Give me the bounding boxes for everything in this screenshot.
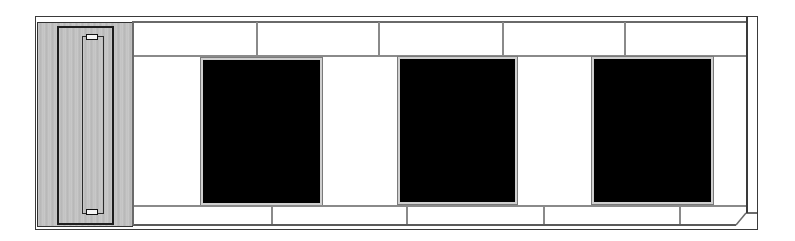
lower-band-joint (271, 206, 273, 224)
lower-band-bottom-line (132, 224, 736, 226)
lower-band-top-line (132, 205, 746, 207)
door-inner-panel (82, 36, 104, 214)
lower-band-joint (406, 206, 408, 224)
bottom-hinge-icon (86, 209, 98, 215)
base-chamfer (734, 210, 758, 230)
upper-band-joint (256, 22, 258, 56)
top-cap-line (132, 21, 746, 23)
wall-left-edge (132, 22, 134, 225)
lower-band-joint (543, 206, 545, 224)
upper-band-joint (378, 22, 380, 56)
window-2 (398, 57, 517, 204)
upper-band-joint (624, 22, 626, 56)
top-hinge-icon (86, 34, 98, 40)
upper-band-joint (502, 22, 504, 56)
lower-band-joint (679, 206, 681, 224)
window-3 (592, 57, 713, 204)
right-post-line (746, 17, 748, 213)
window-1 (201, 58, 322, 205)
